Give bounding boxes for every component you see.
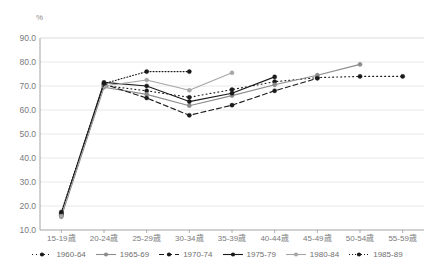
y-axis-tick-label: 10.0 xyxy=(2,225,36,235)
data-point-1965-69 xyxy=(273,83,277,87)
data-point-1975-79 xyxy=(273,75,277,79)
data-point-1960-64 xyxy=(187,95,191,99)
line-chart: % 90.080.070.060.050.040.030.020.010.0 1… xyxy=(0,0,434,277)
legend-swatch-icon xyxy=(31,250,53,259)
y-axis-tick-label: 50.0 xyxy=(2,129,36,139)
data-point-1960-64 xyxy=(358,74,362,78)
chart-legend: 1960-641965-691970-741975-791980-841985-… xyxy=(0,250,434,259)
data-point-1965-69 xyxy=(358,62,362,66)
y-axis-tick-label: 20.0 xyxy=(2,201,36,211)
x-axis-tick-label: 55-59歳 xyxy=(377,232,429,243)
legend-swatch-icon xyxy=(222,250,244,259)
legend-item-label: 1975-79 xyxy=(247,250,276,259)
legend-item-1965-69[interactable]: 1965-69 xyxy=(95,250,149,259)
data-point-1985-89 xyxy=(145,70,149,74)
data-point-1985-89 xyxy=(187,70,191,74)
legend-item-label: 1960-64 xyxy=(56,250,85,259)
legend-item-label: 1965-69 xyxy=(120,250,149,259)
legend-item-1970-74[interactable]: 1970-74 xyxy=(158,250,212,259)
legend-item-label: 1985-89 xyxy=(373,250,402,259)
data-point-1980-84 xyxy=(230,71,234,75)
data-point-1985-89 xyxy=(59,210,63,214)
legend-item-label: 1980-84 xyxy=(310,250,339,259)
data-point-1980-84 xyxy=(187,88,191,92)
series-line-1985-89 xyxy=(61,72,189,212)
data-point-1970-74 xyxy=(315,76,319,80)
data-point-1975-79 xyxy=(230,91,234,95)
legend-swatch-icon xyxy=(285,250,307,259)
data-point-1985-89 xyxy=(102,82,106,86)
data-point-1970-74 xyxy=(145,96,149,100)
legend-item-1960-64[interactable]: 1960-64 xyxy=(31,250,85,259)
data-point-1970-74 xyxy=(230,103,234,107)
series-line-1975-79 xyxy=(61,77,274,213)
legend-swatch-icon xyxy=(158,250,180,259)
y-axis-tick-label: 40.0 xyxy=(2,153,36,163)
legend-item-1975-79[interactable]: 1975-79 xyxy=(222,250,276,259)
legend-item-1985-89[interactable]: 1985-89 xyxy=(348,250,402,259)
data-point-1980-84 xyxy=(145,78,149,82)
y-axis-tick-label: 80.0 xyxy=(2,57,36,67)
data-point-1975-79 xyxy=(187,100,191,104)
y-axis-tick-label: 70.0 xyxy=(2,81,36,91)
data-point-1965-69 xyxy=(187,104,191,108)
data-point-1970-74 xyxy=(187,113,191,117)
legend-swatch-icon xyxy=(95,250,117,259)
legend-item-label: 1970-74 xyxy=(183,250,212,259)
data-point-1975-79 xyxy=(145,84,149,88)
data-point-1970-74 xyxy=(273,89,277,93)
data-point-1960-64 xyxy=(401,74,405,78)
y-axis-tick-label: 90.0 xyxy=(2,33,36,43)
y-axis-tick-label: 60.0 xyxy=(2,105,36,115)
y-axis-tick-label: 30.0 xyxy=(2,177,36,187)
legend-swatch-icon xyxy=(348,250,370,259)
legend-item-1980-84[interactable]: 1980-84 xyxy=(285,250,339,259)
